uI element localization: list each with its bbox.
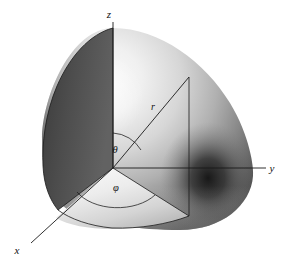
theta-label: θ bbox=[112, 144, 117, 155]
x-axis-label: x bbox=[14, 244, 20, 256]
radius-label: r bbox=[151, 101, 155, 112]
phi-label: φ bbox=[113, 182, 119, 193]
figure-canvas: z y x r θ φ bbox=[0, 0, 288, 266]
spherical-coordinates-figure: z y x r θ φ bbox=[0, 0, 288, 266]
z-axis-label: z bbox=[106, 8, 112, 20]
y-axis-label: y bbox=[269, 162, 275, 174]
